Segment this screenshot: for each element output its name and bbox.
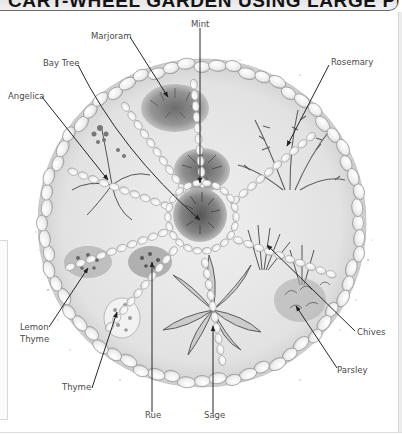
bed-bay-tree: [173, 188, 227, 242]
label-chives: Chives: [357, 327, 385, 337]
label-thyme: Thyme: [62, 382, 91, 392]
label-rue: Rue: [145, 410, 161, 420]
bed-thyme: [104, 298, 140, 338]
label-sage: Sage: [204, 410, 225, 420]
label-lemon-thyme-line2: Thyme: [20, 334, 49, 344]
label-marjoram: Marjoram: [91, 31, 132, 41]
label-bay-tree: Bay Tree: [43, 58, 79, 68]
label-lemon-thyme-line1: Lemon: [20, 322, 49, 332]
label-mint: Mint: [191, 19, 209, 29]
label-parsley: Parsley: [337, 365, 368, 375]
label-rosemary: Rosemary: [331, 57, 373, 67]
label-angelica: Angelica: [8, 91, 44, 101]
